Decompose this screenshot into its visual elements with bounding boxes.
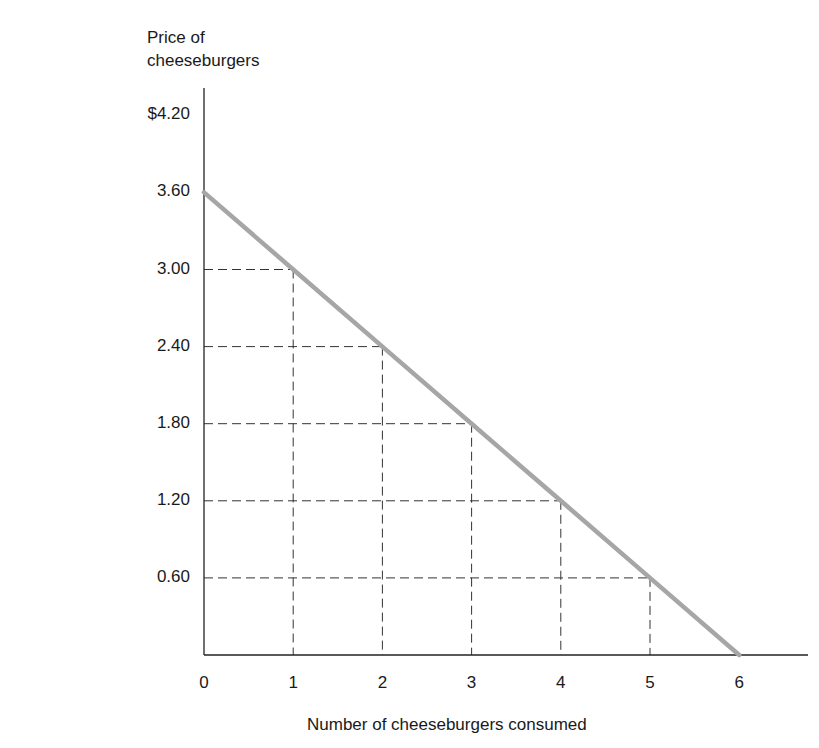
x-tick-label: 4 <box>546 673 576 693</box>
x-tick-label: 1 <box>278 673 308 693</box>
y-tick-label: 1.20 <box>120 490 190 510</box>
y-tick-label: 2.40 <box>120 336 190 356</box>
x-tick-label: 3 <box>457 673 487 693</box>
x-axis-title: Number of cheeseburgers consumed <box>307 715 587 735</box>
x-tick-label: 6 <box>724 673 754 693</box>
y-tick-label: 3.00 <box>120 259 190 279</box>
y-tick-label: 3.60 <box>120 181 190 201</box>
y-tick-label: $4.20 <box>120 104 190 124</box>
x-tick-label: 2 <box>367 673 397 693</box>
y-tick-label: 0.60 <box>120 567 190 587</box>
y-tick-label: 1.80 <box>120 413 190 433</box>
x-tick-label: 0 <box>189 673 219 693</box>
reference-dashed-lines <box>204 270 650 656</box>
x-tick-label: 5 <box>635 673 665 693</box>
y-axis-title-line1: Price of <box>147 28 205 48</box>
y-axis-title-line2: cheeseburgers <box>147 51 259 71</box>
